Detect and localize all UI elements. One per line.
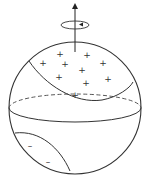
plus-sign: + [55,72,63,82]
positive-charge-marks: ++++++++++ [39,49,112,100]
plus-sign: + [83,50,91,60]
plus-sign: + [104,74,112,84]
minus-sign: – [28,141,33,151]
rotation-arrowhead-icon [79,23,83,27]
sphere-outline [9,42,141,174]
plus-sign: + [56,49,64,59]
plus-sign: + [39,58,47,68]
plus-sign: + [78,65,86,75]
minus-sign: – [46,157,51,167]
plus-sign: + [99,58,107,68]
diagram-canvas: ++++++++++ –– [0,0,148,181]
rotating-sphere-diagram: ++++++++++ –– [0,0,148,181]
equator-front [9,108,141,122]
plus-sign: + [82,78,90,88]
plus-sign: + [71,90,79,100]
plus-sign: + [61,59,69,69]
